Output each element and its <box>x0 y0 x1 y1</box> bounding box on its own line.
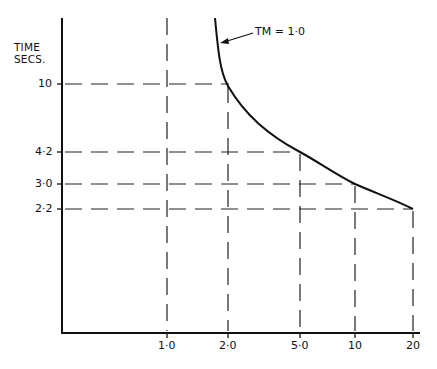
arrow-head-icon <box>220 38 229 44</box>
y-axis-title-line2: SECS. <box>14 53 46 65</box>
curve-annotation-label: TM = 1·0 <box>255 26 305 38</box>
vertical-reference-lines <box>167 18 413 331</box>
x-tick-label-2-0: 2·0 <box>219 340 237 352</box>
x-tick-label-1-0: 1·0 <box>158 340 176 352</box>
y-tick-label-10: 10 <box>38 78 52 90</box>
y-tick-label-4-2: 4·2 <box>35 146 53 158</box>
tm-curve <box>215 18 413 209</box>
x-tick-label-5-0: 5·0 <box>291 340 309 352</box>
x-tick-label-10: 10 <box>348 340 362 352</box>
y-axis-title-line1: TIME <box>14 41 40 53</box>
x-tick-label-20: 20 <box>406 340 420 352</box>
y-tick-label-3-0: 3·0 <box>35 178 53 190</box>
time-curve-chart <box>0 0 437 369</box>
y-tick-label-2-2: 2·2 <box>35 203 53 215</box>
